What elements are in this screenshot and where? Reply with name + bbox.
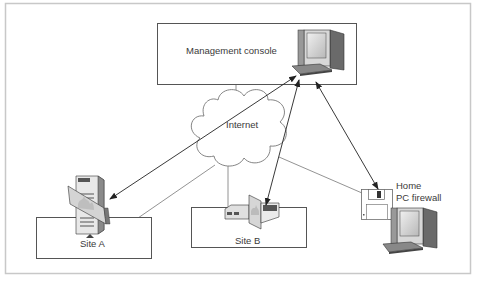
home-label: Home (396, 180, 421, 191)
management-console-label: Management console (186, 45, 277, 56)
site-a-label: Site A (80, 238, 105, 249)
floppy-disk-icon (362, 190, 393, 220)
home-desktop-computer-icon (383, 208, 437, 254)
desktop-computer-icon (292, 30, 344, 76)
management-console-node[interactable]: Management console (158, 24, 357, 85)
network-diagram: Management console Internet Site A (0, 0, 477, 286)
pc-firewall-label: PC firewall (396, 192, 441, 203)
site-b-label: Site B (235, 235, 260, 246)
internet-label: Internet (226, 119, 259, 130)
